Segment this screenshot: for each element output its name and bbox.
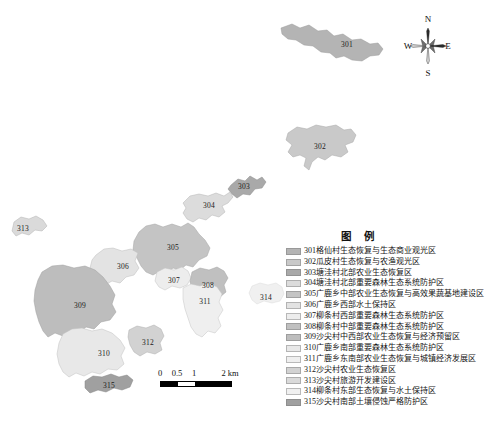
- region-label-312: 312: [142, 338, 154, 347]
- region-label-309: 309: [74, 301, 86, 310]
- legend-swatch-309: [286, 334, 301, 341]
- legend-label-308: 308柳条村中部重要森林生态系统防护区: [304, 322, 444, 333]
- legend-swatch-305: [286, 291, 301, 298]
- legend-title: 图 例: [282, 228, 498, 243]
- compass-label-west: W: [404, 41, 413, 51]
- legend-label-301: 301格仙村生态恢复与生态商业观光区: [304, 246, 436, 257]
- legend-items: 301格仙村生态恢复与生态商业观光区302瓜皮村生态恢复与农渔观光区303塘洼村…: [282, 246, 498, 408]
- legend-swatch-303: [286, 269, 301, 276]
- legend-label-302: 302瓜皮村生态恢复与农渔观光区: [304, 257, 420, 268]
- legend-swatch-314: [286, 388, 301, 395]
- legend-label-312: 312沙尖村农业生态恢复区: [304, 365, 396, 376]
- legend-swatch-311: [286, 356, 301, 363]
- legend-label-309: 309沙尖村中西部农业生态恢复与经济预留区: [304, 332, 460, 343]
- scale-bar-graphic: [160, 381, 232, 387]
- legend-label-304: 304塘洼村北部重要森林生态系统防护区: [304, 278, 444, 289]
- legend-item-303[interactable]: 303塘洼村北部农业生态恢复区: [282, 268, 498, 279]
- legend-label-303: 303塘洼村北部农业生态恢复区: [304, 268, 412, 279]
- scale-segment-1: [161, 382, 178, 386]
- legend-label-305: 305广鹿乡中部农业生态恢复与高效果蔬基地建设区: [304, 289, 484, 300]
- legend-item-313[interactable]: 313沙尖村旅游开发建设区: [282, 376, 498, 387]
- legend-item-315[interactable]: 315沙尖村南部土壤侵蚀严格防护区: [282, 397, 498, 408]
- region-label-308: 308: [202, 281, 214, 290]
- region-label-305: 305: [167, 243, 179, 252]
- legend-label-315: 315沙尖村南部土壤侵蚀严格防护区: [304, 397, 428, 408]
- region-label-304: 304: [203, 201, 215, 210]
- scale-tick-0.5: 0.5: [172, 368, 183, 378]
- legend-swatch-308: [286, 323, 301, 330]
- legend-item-307[interactable]: 307柳条村西部重要森林生态系统防护区: [282, 311, 498, 322]
- region-label-313: 313: [17, 224, 29, 233]
- region-label-315: 315: [103, 381, 115, 390]
- region-label-303: 303: [238, 182, 250, 191]
- region-label-307: 307: [168, 276, 180, 285]
- legend-swatch-304: [286, 280, 301, 287]
- compass-label-north: N: [425, 14, 432, 24]
- legend-item-311[interactable]: 311广鹿乡东南部农业生态恢复与城镇经济发展区: [282, 354, 498, 365]
- legend-swatch-310: [286, 345, 301, 352]
- legend-swatch-306: [286, 302, 301, 309]
- legend-item-304[interactable]: 304塘洼村北部重要森林生态系统防护区: [282, 278, 498, 289]
- legend-swatch-315: [286, 399, 301, 406]
- region-label-311: 311: [199, 297, 211, 306]
- legend-item-312[interactable]: 312沙尖村农业生态恢复区: [282, 365, 498, 376]
- legend-item-308[interactable]: 308柳条村中部重要森林生态系统防护区: [282, 322, 498, 333]
- legend-label-314: 314柳条村东部生态恢复与水土保持区: [304, 386, 436, 397]
- map-region-310[interactable]: [57, 328, 125, 377]
- legend-swatch-312: [286, 367, 301, 374]
- legend-item-305[interactable]: 305广鹿乡中部农业生态恢复与高效果蔬基地建设区: [282, 289, 498, 300]
- region-label-306: 306: [117, 262, 129, 271]
- compass-label-south: S: [425, 68, 430, 78]
- legend-label-313: 313沙尖村旅游开发建设区: [304, 376, 396, 387]
- legend-item-314[interactable]: 314柳条村东部生态恢复与水土保持区: [282, 386, 498, 397]
- region-label-310: 310: [98, 349, 110, 358]
- scale-bar: 0 0.5 1 2 km: [158, 368, 254, 387]
- legend-swatch-307: [286, 313, 301, 320]
- region-label-301: 301: [341, 40, 353, 49]
- legend-item-302[interactable]: 302瓜皮村生态恢复与农渔观光区: [282, 257, 498, 268]
- legend-swatch-313: [286, 377, 301, 384]
- compass-label-east: E: [445, 41, 451, 51]
- legend-item-309[interactable]: 309沙尖村中西部农业生态恢复与经济预留区: [282, 332, 498, 343]
- legend-label-311: 311广鹿乡东南部农业生态恢复与城镇经济发展区: [304, 354, 476, 365]
- map-figure: 301 302 303 304 305 306 307 308 309 310 …: [0, 0, 500, 432]
- legend: 图 例 301格仙村生态恢复与生态商业观光区302瓜皮村生态恢复与农渔观光区30…: [282, 228, 498, 408]
- legend-swatch-301: [286, 248, 301, 255]
- scale-segment-2: [178, 382, 195, 386]
- scale-segment-3: [195, 382, 231, 386]
- region-label-302: 302: [314, 142, 326, 151]
- region-label-314: 314: [260, 293, 272, 302]
- legend-label-306: 306广鹿乡西部水土保持区: [304, 300, 396, 311]
- scale-tick-1: 1: [192, 368, 196, 378]
- legend-swatch-302: [286, 259, 301, 266]
- legend-item-306[interactable]: 306广鹿乡西部水土保持区: [282, 300, 498, 311]
- legend-item-310[interactable]: 310广鹿乡南部重要森林生态系统防护区: [282, 343, 498, 354]
- scale-bar-ticks: 0 0.5 1 2 km: [158, 368, 254, 380]
- map-region-311[interactable]: [183, 283, 223, 337]
- scale-tick-2km: 2 km: [221, 368, 238, 378]
- legend-label-310: 310广鹿乡南部重要森林生态系统防护区: [304, 343, 444, 354]
- legend-label-307: 307柳条村西部重要森林生态系统防护区: [304, 311, 444, 322]
- map-region-301[interactable]: [281, 24, 383, 61]
- legend-item-301[interactable]: 301格仙村生态恢复与生态商业观光区: [282, 246, 498, 257]
- scale-tick-0: 0: [158, 368, 162, 378]
- compass-rose: N S W E: [404, 14, 452, 78]
